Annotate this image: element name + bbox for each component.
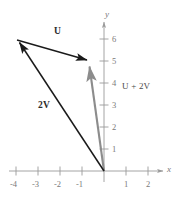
x-tick-label-2: 2	[146, 180, 150, 189]
x-tick-label-neg2: -2	[54, 180, 61, 189]
vector-u	[17, 40, 87, 60]
vector-2v-label: 2V	[38, 101, 50, 111]
x-tick-label-neg4: -4	[10, 180, 17, 189]
x-axis	[9, 167, 163, 176]
x-tick-label-neg1: -1	[76, 180, 83, 189]
x-axis-label: x	[167, 165, 171, 174]
y-tick-label-5: 5	[112, 57, 116, 66]
y-axis-label: y	[105, 10, 109, 19]
vector-u-plus-2v	[90, 67, 105, 172]
y-axis	[100, 22, 109, 182]
vector-u-plus-2v-label: U + 2V	[122, 82, 150, 91]
vector-2v	[20, 43, 105, 172]
y-tick-label-3: 3	[112, 101, 116, 110]
y-tick-label-2: 2	[112, 123, 116, 132]
x-tick-label-neg3: -3	[32, 180, 39, 189]
vector-u-label: U	[54, 27, 61, 37]
plot-canvas	[0, 0, 179, 202]
y-tick-label-1: 1	[112, 145, 116, 154]
x-tick-label-1: 1	[124, 180, 128, 189]
y-tick-label-4: 4	[112, 79, 116, 88]
y-tick-label-6: 6	[112, 35, 116, 44]
vector-diagram-figure: 6 5 4 3 2 1 -4 -3 -2 -1 1 2 x y U 2V U +…	[0, 0, 179, 202]
